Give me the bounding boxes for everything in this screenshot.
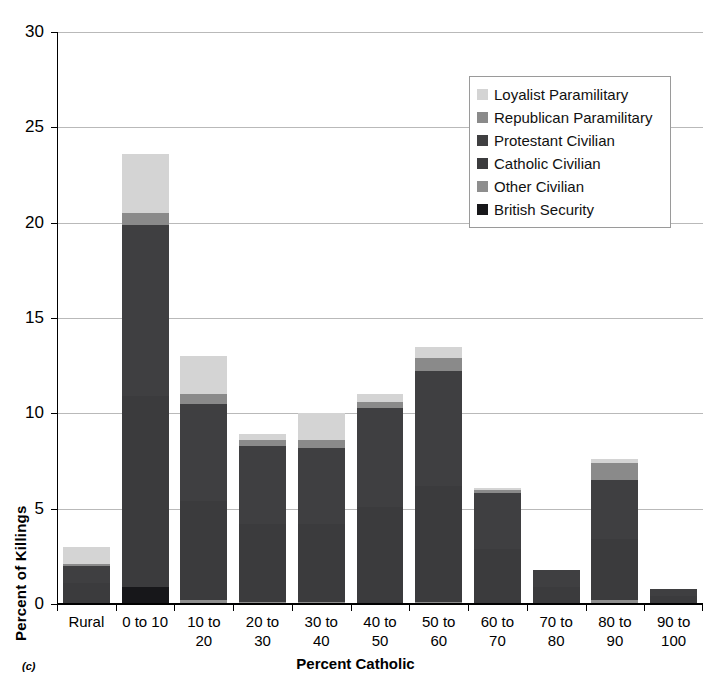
legend-item-label: Republican Paramilitary	[494, 110, 652, 125]
legend-swatch-icon	[477, 158, 488, 169]
x-tick-label-line: 40 to	[351, 612, 410, 631]
legend-item[interactable]: Loyalist Paramilitary	[477, 83, 663, 106]
legend-item[interactable]: Republican Paramilitary	[477, 106, 663, 129]
x-axis-tick-labels: Rural0 to 1010 to2020 to3030 to4040 to50…	[57, 612, 703, 658]
x-tick-mark	[292, 604, 293, 611]
x-tick-mark	[409, 604, 410, 611]
x-tick-label-line: 10 to	[174, 612, 233, 631]
legend-item[interactable]: Protestant Civilian	[477, 129, 663, 152]
legend-item-label: Loyalist Paramilitary	[494, 87, 628, 102]
x-tick-label-line: 40	[292, 631, 351, 650]
x-tick-label-line: 100	[644, 631, 703, 650]
x-tick-label: 70 to80	[527, 612, 586, 650]
x-tick-label-line: 90	[586, 631, 645, 650]
x-tick-label-line: 20	[174, 631, 233, 650]
x-tick-label-line: 30 to	[292, 612, 351, 631]
x-tick-label: 40 to50	[351, 612, 410, 650]
x-tick-mark	[468, 604, 469, 611]
x-tick-label-line: 60 to	[468, 612, 527, 631]
x-tick-label: 50 to60	[409, 612, 468, 650]
legend-swatch-icon	[477, 181, 488, 192]
x-tick-label: 80 to90	[586, 612, 645, 650]
legend-swatch-icon	[477, 135, 488, 146]
legend-item-label: Protestant Civilian	[494, 133, 615, 148]
x-tick-mark	[116, 604, 117, 611]
x-tick-label-line: 90 to	[644, 612, 703, 631]
x-tick-label-line: 50	[351, 631, 410, 650]
x-tick-mark	[233, 604, 234, 611]
legend-item-label: Other Civilian	[494, 179, 584, 194]
x-tick-label: 90 to100	[644, 612, 703, 650]
x-tick-label-line: 20 to	[233, 612, 292, 631]
legend-swatch-icon	[477, 89, 488, 100]
x-tick-label-line: 50 to	[409, 612, 468, 631]
y-tick-label: 15	[0, 309, 44, 326]
legend-item-label: Catholic Civilian	[494, 156, 601, 171]
x-tick-label-line: 70 to	[527, 612, 586, 631]
y-tick-label: 30	[0, 23, 44, 40]
x-tick-mark	[586, 604, 587, 611]
x-tick-label-line: 80	[527, 631, 586, 650]
x-tick-label-line: 70	[468, 631, 527, 650]
x-tick-label: 10 to20	[174, 612, 233, 650]
chart-figure: 051015202530 Percent of Killings Rural0 …	[0, 0, 711, 691]
x-tick-mark	[527, 604, 528, 611]
x-tick-label: 0 to 10	[116, 612, 175, 631]
x-axis-ticks	[57, 604, 703, 612]
chart-legend: Loyalist ParamilitaryRepublican Paramili…	[469, 76, 671, 228]
y-tick-label: 25	[0, 118, 44, 135]
y-tick-label: 10	[0, 404, 44, 421]
legend-swatch-icon	[477, 204, 488, 215]
x-tick-mark	[644, 604, 645, 611]
y-axis-title: Percent of Killings	[12, 461, 29, 641]
x-tick-label-line: 0 to 10	[116, 612, 175, 631]
x-tick-label: Rural	[57, 612, 116, 631]
x-tick-label: 60 to70	[468, 612, 527, 650]
legend-item-label: British Security	[494, 202, 594, 217]
figure-caption: (c)	[22, 660, 35, 672]
x-tick-label: 30 to40	[292, 612, 351, 650]
legend-swatch-icon	[477, 112, 488, 123]
x-tick-mark	[174, 604, 175, 611]
x-tick-mark	[351, 604, 352, 611]
x-tick-mark	[702, 604, 703, 611]
x-tick-label-line: 60	[409, 631, 468, 650]
x-tick-label-line: 30	[233, 631, 292, 650]
y-tick-label: 20	[0, 214, 44, 231]
x-tick-label: 20 to30	[233, 612, 292, 650]
legend-item[interactable]: Other Civilian	[477, 175, 663, 198]
legend-item[interactable]: British Security	[477, 198, 663, 221]
x-tick-label-line: Rural	[57, 612, 116, 631]
x-axis-title: Percent Catholic	[0, 655, 711, 672]
legend-item[interactable]: Catholic Civilian	[477, 152, 663, 175]
x-tick-mark	[57, 604, 58, 611]
x-tick-label-line: 80 to	[586, 612, 645, 631]
